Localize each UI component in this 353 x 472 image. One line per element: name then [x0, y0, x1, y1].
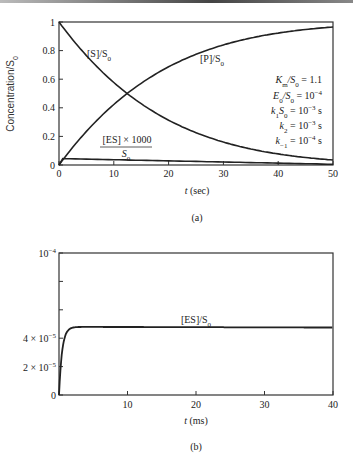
- param-3: k2 = 10−3 s: [280, 119, 323, 135]
- y-tick-label: 4 × 10−5: [23, 332, 57, 344]
- figure: 0102030405000.20.40.60.81[S]/S0[P]/S0[ES…: [0, 0, 353, 472]
- caption-b: (b): [190, 441, 202, 453]
- label-es-denominator: S0: [122, 148, 131, 163]
- y-tick-label: 0.2: [43, 131, 56, 142]
- series-es: [59, 327, 332, 395]
- y-tick-label: 0.8: [43, 45, 56, 56]
- x-tick-label: 10: [109, 168, 119, 179]
- x-tick-label: 40: [273, 168, 283, 179]
- param-0: Km/S0 = 1.1: [274, 74, 322, 89]
- series-es: [59, 159, 333, 165]
- chart-a: 0102030405000.20.40.60.81[S]/S0[P]/S0[ES…: [5, 17, 338, 225]
- x-tick-label: 40: [328, 399, 338, 410]
- x-tick-label: 10: [123, 399, 133, 410]
- param-2: k1S0 = 10−3 s: [271, 104, 322, 120]
- y-tick-label: 0: [50, 160, 55, 171]
- x-tick-label: 20: [164, 168, 174, 179]
- label-es-numerator: [ES] × 1000: [103, 134, 152, 145]
- y-tick-label: 2 × 10−5: [23, 361, 57, 373]
- y-axis-label: Concentration/S0: [5, 56, 19, 132]
- y-tick-label: 0.4: [43, 102, 56, 113]
- y-tick-label: 0: [51, 390, 56, 401]
- x-axis-label: t (ms): [184, 415, 208, 427]
- y-tick-label: 0.6: [43, 74, 56, 85]
- label-p: [P]/S0: [200, 53, 225, 68]
- x-tick-label: 30: [260, 399, 270, 410]
- caption-a: (a): [191, 212, 202, 224]
- param-4: k−1 = 10−4 s: [276, 134, 323, 150]
- y-tick-label: 10−4: [39, 247, 57, 259]
- param-1: E0/S0 = 10−4: [272, 89, 322, 105]
- chart-b: 1020304002 × 10−54 × 10−510−4[ES]/S0t (m…: [23, 247, 338, 453]
- x-tick-label: 0: [57, 168, 62, 179]
- x-tick-label: 20: [191, 399, 201, 410]
- x-tick-label: 50: [328, 168, 338, 179]
- x-axis-label: t (sec): [185, 185, 210, 197]
- y-tick-label: 1: [50, 17, 55, 28]
- x-tick-label: 30: [218, 168, 228, 179]
